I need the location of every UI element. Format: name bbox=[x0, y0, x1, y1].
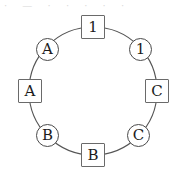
node-right-square[interactable]: C bbox=[145, 79, 169, 103]
node-bottom-square[interactable]: B bbox=[81, 143, 105, 167]
node-top-square[interactable]: 1 bbox=[81, 15, 105, 39]
node-label: 1 bbox=[88, 19, 98, 34]
node-label: A bbox=[25, 83, 36, 98]
node-label: C bbox=[151, 83, 162, 98]
node-bottom-left-circle[interactable]: B bbox=[36, 124, 59, 147]
node-left-square[interactable]: A bbox=[18, 79, 42, 103]
node-label: B bbox=[42, 128, 53, 143]
node-label: A bbox=[42, 42, 53, 57]
node-top-left-circle[interactable]: A bbox=[36, 38, 59, 61]
node-label: 1 bbox=[136, 42, 146, 57]
node-label: B bbox=[87, 147, 98, 162]
node-top-right-circle[interactable]: 1 bbox=[129, 38, 152, 61]
ring-diagram: · — · · · · · 11CCBBAA bbox=[0, 0, 181, 182]
node-bottom-right-circle[interactable]: C bbox=[127, 124, 150, 147]
node-label: C bbox=[133, 128, 144, 143]
